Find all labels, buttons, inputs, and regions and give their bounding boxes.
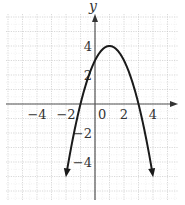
- y-tick-label: 4: [84, 39, 92, 54]
- x-tick-label: 4: [149, 107, 157, 122]
- x-tick-label: 0: [98, 107, 106, 122]
- y-tick-label: −4: [73, 155, 92, 170]
- x-tick-label: −2: [56, 107, 75, 122]
- y-axis-label: y: [88, 0, 98, 14]
- x-tick-label: 2: [120, 107, 128, 122]
- parabola-graph: −4−202442−2−4 y: [0, 0, 185, 205]
- x-tick-label: −4: [27, 107, 46, 122]
